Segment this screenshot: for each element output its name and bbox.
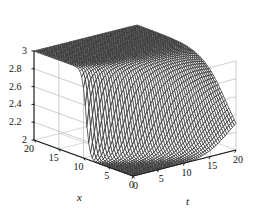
figure-3d-surface-plot: 32.82.62.42.222015105005101520xt [0,0,260,215]
x-axis-title: x [77,192,82,203]
x-tick-label-20: 20 [24,144,34,154]
mesh-surface [34,25,236,176]
t-tick-label-20: 20 [233,155,243,165]
z-tick-label-2.6: 2.6 [9,82,22,92]
x-tick-label-5: 5 [104,171,109,181]
t-tick-label-15: 15 [207,161,217,171]
t-tick-label-5: 5 [159,174,164,184]
z-tick-label-2.4: 2.4 [9,99,22,109]
x-tick-label-10: 10 [74,162,84,172]
z-tick-label-3: 3 [22,46,27,56]
t-tick-label-10: 10 [182,168,192,178]
x-tick-label-15: 15 [49,153,59,163]
z-tick-label-2.2: 2.2 [9,117,22,127]
t-axis-title: t [186,196,189,207]
t-tick-label-0: 0 [133,181,138,191]
z-tick-label-2.8: 2.8 [9,64,22,74]
